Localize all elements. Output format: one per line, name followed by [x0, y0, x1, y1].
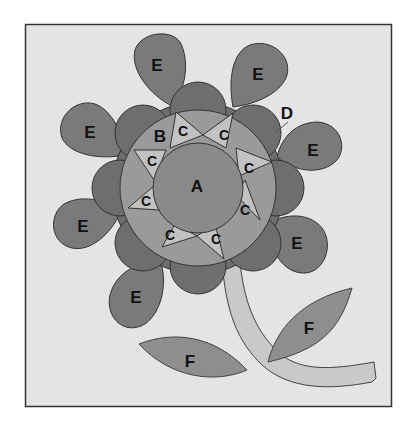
label-C-1: C — [178, 123, 188, 139]
label-E-top-left: E — [151, 56, 162, 75]
label-E-right-upper: E — [307, 141, 318, 160]
label-A: A — [191, 177, 203, 196]
label-E-top-right: E — [252, 65, 263, 84]
label-B: B — [154, 127, 166, 146]
label-F-left: F — [185, 352, 195, 371]
flower-diagram: A B D C C C C C C C C E E E E E E E F F — [0, 0, 416, 428]
label-C-6: C — [165, 227, 175, 243]
label-C-4: C — [240, 202, 250, 218]
label-E-bottom-left: E — [130, 288, 141, 307]
label-E-left-upper: E — [84, 123, 95, 142]
label-C-8: C — [147, 153, 157, 169]
label-E-left-lower: E — [77, 217, 88, 236]
label-F-right: F — [304, 319, 314, 338]
label-C-5: C — [211, 231, 221, 247]
label-D: D — [281, 104, 293, 123]
label-E-right-lower: E — [291, 234, 302, 253]
label-C-7: C — [141, 193, 151, 209]
label-C-2: C — [219, 127, 229, 143]
label-C-3: C — [244, 160, 254, 176]
